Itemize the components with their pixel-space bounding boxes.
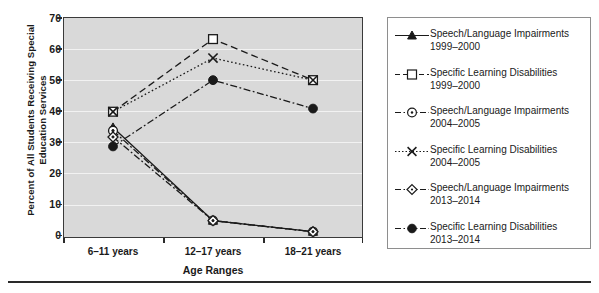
legend-label-4-line2: 2013–2014	[430, 195, 480, 206]
legend-label-2-line1: Speech/Language Impairments	[430, 105, 569, 116]
y-tickmark	[57, 110, 62, 112]
y-axis-title: Percent of All Students Receiving Specia…	[25, 20, 49, 220]
legend-item-2[interactable]: Speech/Language Impairments2004–2005	[394, 104, 584, 134]
legend: Speech/Language Impairments1999–2000 Spe…	[387, 17, 591, 249]
y-tickmark	[57, 173, 62, 175]
legend-label-3-line1: Specific Learning Disabilities	[430, 144, 557, 155]
data-point-open-square	[209, 35, 218, 44]
legend-label-3: Specific Learning Disabilities2004–2005	[430, 143, 557, 169]
chart-figure: 70 60 50 40 30 20 10 0 Percent of All St…	[0, 0, 599, 293]
x-tick-2: 18–21 years	[285, 246, 342, 257]
legend-label-0-line1: Speech/Language Impairments	[430, 28, 569, 39]
open-circle-dot-icon	[394, 105, 430, 118]
legend-label-1-line1: Specific Learning Disabilities	[430, 67, 557, 78]
y-tickmark	[57, 48, 62, 50]
x-tickmark	[362, 238, 364, 243]
legend-label-5-line2: 2013–2014	[430, 234, 480, 245]
x-tick-1: 12–17 years	[185, 246, 242, 257]
y-tickmark	[57, 235, 62, 237]
legend-label-3-line2: 2004–2005	[430, 157, 480, 168]
x-axis-title: Age Ranges	[63, 264, 363, 276]
open-square-icon	[394, 67, 430, 80]
y-tickmark	[57, 141, 62, 143]
legend-label-4-line1: Speech/Language Impairments	[430, 182, 569, 193]
data-point-filled-circle	[309, 104, 318, 113]
data-point-filled-circle	[209, 76, 218, 85]
legend-item-0[interactable]: Speech/Language Impairments1999–2000	[394, 27, 584, 57]
legend-label-1-line2: 1999–2000	[430, 80, 480, 91]
y-tickmark	[57, 17, 62, 19]
legend-label-0: Speech/Language Impairments1999–2000	[430, 27, 569, 53]
legend-label-1: Specific Learning Disabilities1999–2000	[430, 66, 557, 92]
legend-item-4[interactable]: Speech/Language Impairments2013–2014	[394, 181, 584, 211]
legend-item-5[interactable]: Specific Learning Disabilities2013–2014	[394, 220, 584, 250]
y-tickmark	[57, 79, 62, 81]
open-diamond-icon	[394, 182, 430, 195]
x-tickmark	[263, 238, 265, 243]
y-tickmark	[57, 204, 62, 206]
legend-label-4: Speech/Language Impairments2013–2014	[430, 181, 569, 207]
series-overlay	[63, 17, 363, 238]
x-tickmark	[63, 238, 65, 243]
legend-label-5-line1: Specific Learning Disabilities	[430, 221, 557, 232]
filled-circle-icon	[394, 221, 430, 234]
legend-item-3[interactable]: Specific Learning Disabilities2004–2005	[394, 143, 584, 173]
legend-label-2-line2: 2004–2005	[430, 118, 480, 129]
data-point-filled-circle	[109, 142, 118, 151]
data-point-cross-x	[208, 53, 217, 62]
bottom-divider	[8, 281, 591, 283]
legend-label-2: Speech/Language Impairments2004–2005	[430, 104, 569, 130]
cross-x-icon	[394, 144, 430, 157]
legend-label-5: Specific Learning Disabilities2013–2014	[430, 220, 557, 246]
legend-label-0-line2: 1999–2000	[430, 41, 480, 52]
x-tickmark	[163, 238, 165, 243]
legend-item-1[interactable]: Specific Learning Disabilities1999–2000	[394, 66, 584, 96]
filled-triangle-icon	[394, 28, 430, 41]
x-tick-0: 6–11 years	[88, 246, 139, 257]
